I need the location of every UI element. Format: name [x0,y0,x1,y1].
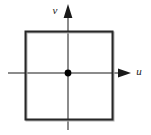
uv-plane-diagram: v u [0,0,151,135]
origin-point [65,70,72,77]
u-axis-label: u [136,65,142,77]
figure-background [0,0,151,135]
v-axis-label: v [53,4,58,16]
figure-canvas: v u [0,0,151,135]
